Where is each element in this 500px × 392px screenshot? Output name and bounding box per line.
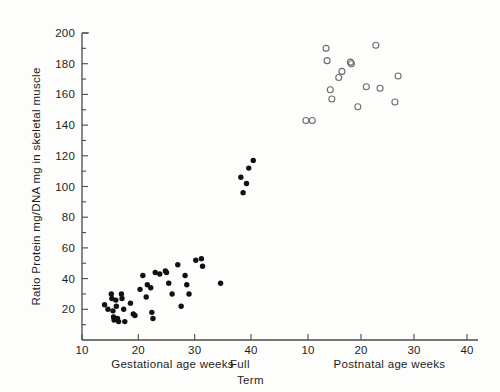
x-gestational-tick-label: 10 <box>75 344 88 356</box>
x-postnatal-tick-label: 40 <box>460 344 473 356</box>
data-point-filled <box>150 316 155 321</box>
data-point-open <box>392 99 398 105</box>
data-point-filled <box>113 297 118 302</box>
data-point-open <box>355 104 361 110</box>
y-tick-label: 180 <box>55 58 75 70</box>
data-point-filled <box>122 319 127 324</box>
data-point-filled <box>128 300 133 305</box>
x-axis-title-postnatal: Postnatal age weeks <box>334 358 446 370</box>
figure-container: 20406080100120140160180200 1020304010203… <box>0 0 500 392</box>
data-point-open <box>363 84 369 90</box>
data-point-filled <box>164 270 169 275</box>
data-point-filled <box>184 282 189 287</box>
data-point-open <box>339 68 345 74</box>
data-point-filled <box>110 308 115 313</box>
data-point-filled <box>238 175 243 180</box>
data-point-open <box>336 75 342 81</box>
data-point-open <box>309 118 315 124</box>
data-point-filled <box>119 296 124 301</box>
data-point-filled <box>148 285 153 290</box>
axis-titles: Gestational age weeksPostnatal age weeks… <box>30 67 445 386</box>
x-postnatal-tick-label: 10 <box>301 344 314 356</box>
data-point-open <box>303 118 309 124</box>
y-tick-label: 100 <box>55 181 75 193</box>
data-point-open <box>329 96 335 102</box>
data-point-open <box>324 58 330 64</box>
y-tick-label: 160 <box>55 88 75 100</box>
data-point-filled <box>121 307 126 312</box>
y-tick-label: 140 <box>55 119 75 131</box>
y-axis: 20406080100120140160180200 <box>55 27 89 340</box>
data-point-filled <box>169 291 174 296</box>
x-axis-full-term-line1: Full <box>230 358 250 370</box>
data-point-filled <box>178 304 183 309</box>
data-point-filled <box>244 181 249 186</box>
x-gestational-tick-label: 40 <box>244 344 257 356</box>
data-point-filled <box>105 307 110 312</box>
y-tick-label: 120 <box>55 150 75 162</box>
data-point-filled <box>119 291 124 296</box>
y-tick-label: 80 <box>62 211 75 223</box>
data-point-filled <box>246 165 251 170</box>
x-postnatal-tick-label: 20 <box>354 344 367 356</box>
y-tick-label: 20 <box>62 303 75 315</box>
data-point-filled <box>157 271 162 276</box>
data-point-filled <box>149 310 154 315</box>
data-point-filled <box>175 262 180 267</box>
data-point-filled <box>218 281 223 286</box>
y-tick-label: 60 <box>62 242 75 254</box>
data-point-filled <box>240 190 245 195</box>
data-point-filled <box>109 291 114 296</box>
data-point-open <box>373 42 379 48</box>
data-point-filled <box>132 313 137 318</box>
data-point-filled <box>182 273 187 278</box>
data-point-filled <box>200 264 205 269</box>
y-tick-label: 40 <box>62 273 75 285</box>
data-point-filled <box>199 256 204 261</box>
data-point-open <box>327 87 333 93</box>
x-axis: 1020304010203040 <box>75 334 478 356</box>
x-axis-full-term-line2: Term <box>237 374 264 386</box>
data-point-filled <box>193 257 198 262</box>
data-point-filled <box>251 158 256 163</box>
data-point-filled <box>102 302 107 307</box>
data-point-open <box>377 85 383 91</box>
x-gestational-tick-label: 30 <box>188 344 201 356</box>
data-point-open <box>395 73 401 79</box>
data-point-filled <box>166 281 171 286</box>
x-postnatal-tick-label: 30 <box>407 344 420 356</box>
data-point-filled <box>137 287 142 292</box>
data-point-filled <box>140 273 145 278</box>
data-point-filled <box>114 304 119 309</box>
data-points <box>102 42 401 324</box>
x-gestational-tick-label: 20 <box>132 344 145 356</box>
data-point-filled <box>186 291 191 296</box>
data-point-filled <box>144 294 149 299</box>
scatter-plot: 20406080100120140160180200 1020304010203… <box>0 0 500 392</box>
y-axis-title: Ratio Protein mg/DNA mg in skeletal musc… <box>30 67 42 305</box>
x-axis-title-gestational: Gestational age weeks <box>111 358 234 370</box>
y-tick-label: 200 <box>55 27 75 39</box>
data-point-open <box>323 45 329 51</box>
data-point-filled <box>116 319 121 324</box>
